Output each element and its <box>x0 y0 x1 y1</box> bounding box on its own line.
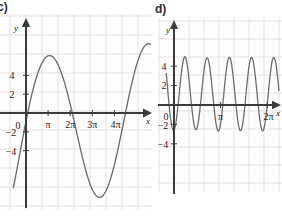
y-tick-label-neg2-d: −2 <box>158 120 169 131</box>
y-axis-d <box>170 20 178 194</box>
y-axis-label-d: y <box>165 25 170 35</box>
y-tick-label-4-c: 4 <box>10 70 15 81</box>
x-axis-label-d: x <box>275 108 280 118</box>
x-tick-label-4pi-c: 4π <box>110 119 120 130</box>
graph-panel-d: y x 4 2 0 −2 −4 π 2π d) <box>152 0 282 216</box>
y-axis-label-c: y <box>13 23 18 33</box>
y-tick-label-neg2-c: −2 <box>6 127 17 138</box>
x-tick-label-2pi-c: 2π <box>65 119 75 130</box>
y-tick-label-2-c: 2 <box>10 89 15 100</box>
x-tick-label-3pi-c: 3π <box>87 119 97 130</box>
x-axis-c <box>0 109 152 118</box>
y-tick-label-2-d: 2 <box>162 80 167 91</box>
x-axis-d <box>158 101 281 109</box>
plot-d: y x 4 2 0 −2 −4 π 2π <box>152 0 282 216</box>
y-tick-label-neg4-c: −4 <box>6 146 17 157</box>
x-tick-label-2pi-d: 2π <box>263 111 273 122</box>
curve-c <box>13 44 151 198</box>
y-tick-label-4-d: 4 <box>162 61 167 72</box>
panel-label-c: c) <box>0 0 8 14</box>
y-tick-label-neg4-d: −4 <box>158 139 169 150</box>
panel-label-d: d) <box>155 2 166 16</box>
graph-panel-c: y x 4 2 0 −2 −4 π 2π 3π 4π c) <box>0 0 152 216</box>
plot-c: y x 4 2 0 −2 −4 π 2π 3π 4π <box>0 0 152 216</box>
x-tick-label-pi-c: π <box>46 119 51 130</box>
x-axis-label-c: x <box>145 116 150 126</box>
x-tick-label-pi-d: π <box>218 111 223 122</box>
